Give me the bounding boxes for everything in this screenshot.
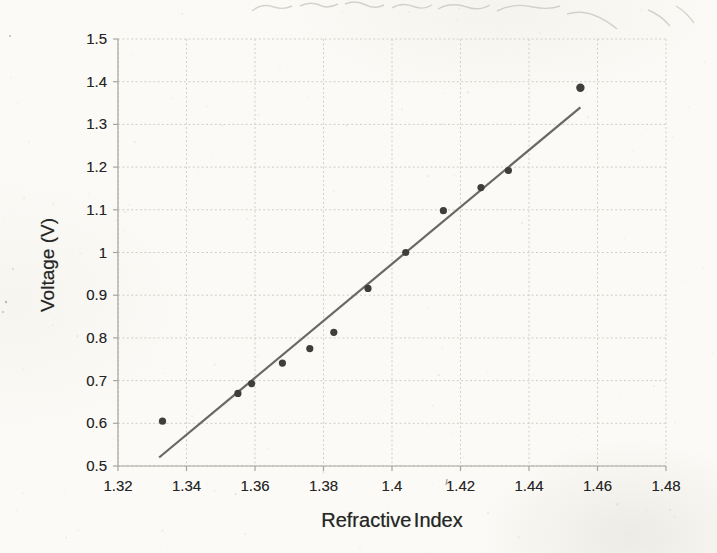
y-tick-label: 0.6 [53, 414, 107, 432]
data-point [576, 84, 584, 92]
data-point [306, 345, 313, 352]
x-tick-label: 1.44 [497, 477, 561, 494]
x-tick-label: 1.36 [223, 477, 287, 494]
x-tick-label: 1.48 [634, 477, 698, 494]
data-point [505, 167, 512, 174]
data-point [330, 329, 337, 336]
scanned-chart-page: 0.50.60.70.80.911.11.21.31.41.5 1.321.34… [0, 0, 717, 553]
data-point [248, 380, 255, 387]
chart-canvas [0, 0, 717, 553]
data-point [279, 360, 286, 367]
y-tick-label: 1.1 [53, 201, 107, 219]
data-point [159, 418, 166, 425]
y-tick-label: 0.7 [53, 372, 107, 390]
x-tick-label: 1.32 [86, 477, 150, 494]
data-point [234, 390, 241, 397]
data-point [440, 207, 447, 214]
x-axis-title: Refractive Index [242, 509, 542, 532]
x-tick-label: 1.34 [155, 477, 219, 494]
y-tick-label: 1.4 [53, 73, 107, 91]
y-tick-label: 1 [53, 244, 107, 262]
x-tick-label: 1.4 [360, 477, 424, 494]
y-tick-label: 0.8 [53, 329, 107, 347]
data-point [477, 184, 484, 191]
y-axis-title: Voltage (V) [36, 185, 60, 345]
data-point [402, 249, 409, 256]
y-tick-label: 1.5 [53, 30, 107, 48]
x-tick-label: 1.42 [429, 477, 493, 494]
y-tick-label: 1.2 [53, 158, 107, 176]
y-tick-label: 0.5 [53, 457, 107, 475]
data-point [364, 285, 371, 292]
y-tick-label: 1.3 [53, 115, 107, 133]
x-tick-label: 1.38 [292, 477, 356, 494]
y-tick-label: 0.9 [53, 286, 107, 304]
x-tick-label: 1.46 [566, 477, 630, 494]
